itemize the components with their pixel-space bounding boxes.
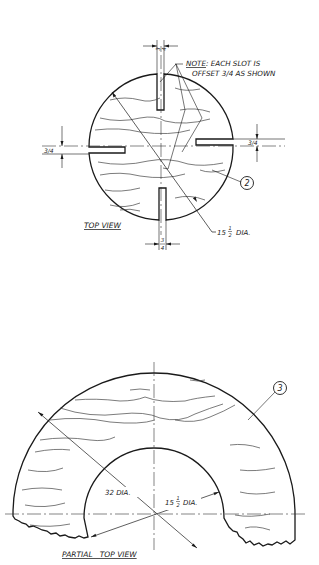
bottom-slot-dimension: 3 4 xyxy=(145,220,180,251)
right-slot-dimension: 3/4 xyxy=(233,124,285,162)
note-line-1: : EACH SLOT IS xyxy=(206,59,261,68)
dim-denominator: 4 xyxy=(161,47,167,51)
top-slot-dimension: 3 4 xyxy=(143,40,178,74)
part-balloon-2: 2 xyxy=(212,170,254,190)
note-line-2: OFFSET 3/4 AS SHOWN xyxy=(192,69,276,78)
svg-text:NOTE: EACH SLOT IS: NOTE: EACH SLOT IS xyxy=(186,59,261,68)
inner-diameter-frac-den: 2 xyxy=(176,502,179,508)
balloon-number: 2 xyxy=(244,179,249,188)
partial-top-view: 32 DIA. 15 1 2 DIA. 3 PARTIAL TOP VIEW xyxy=(5,362,308,559)
outer-diameter-text: 32 DIA. xyxy=(105,489,131,497)
diameter-whole: 15 xyxy=(217,229,226,237)
wood-grain xyxy=(22,380,275,530)
note-label: NOTE xyxy=(186,59,206,68)
top-view-title: TOP VIEW xyxy=(84,221,121,230)
wood-grain xyxy=(95,88,225,211)
partial-top-view-title: PARTIAL TOP VIEW xyxy=(62,550,137,559)
top-view: 3 4 NOTE: EACH SLOT IS OFFSET 3/4 AS SHO… xyxy=(42,40,285,251)
technical-drawing: 3 4 NOTE: EACH SLOT IS OFFSET 3/4 AS SHO… xyxy=(0,0,319,565)
inner-diameter-whole: 15 xyxy=(165,499,174,507)
dim-denominator: 4 xyxy=(161,245,165,251)
diameter-frac-den: 2 xyxy=(228,232,231,238)
dim-left-text: 3/4 xyxy=(44,147,54,154)
balloon-number: 3 xyxy=(277,384,282,393)
inner-diameter-frac-num: 1 xyxy=(176,495,179,501)
inner-diameter-suffix: DIA. xyxy=(183,499,198,507)
diameter-frac-num: 1 xyxy=(228,225,231,231)
left-slot-dimension: 3/4 xyxy=(42,126,89,168)
top-diameter-dimension: 15 1 2 DIA. xyxy=(112,92,251,238)
diameter-suffix: DIA. xyxy=(236,229,251,237)
inner-diameter-dimension: 15 1 2 DIA. xyxy=(91,492,219,537)
part-balloon-3: 3 xyxy=(248,382,287,421)
dim-numerator: 3 xyxy=(161,237,165,243)
dim-right-text: 3/4 xyxy=(248,139,258,146)
